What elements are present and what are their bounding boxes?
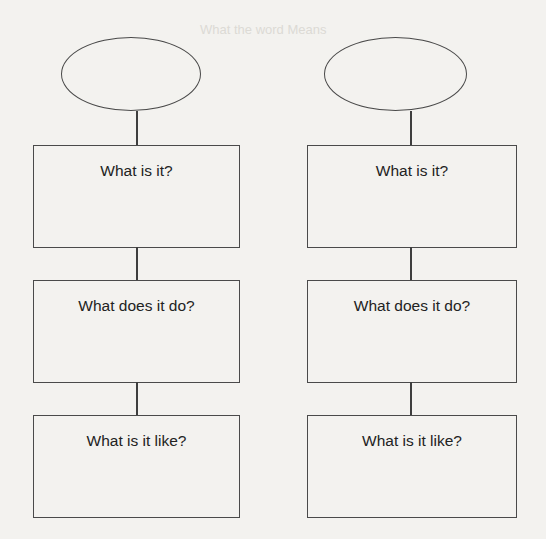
left-box-what-is-it-like: What is it like? <box>33 415 240 518</box>
right-concept-ellipse <box>324 37 467 111</box>
left-box-label: What is it? <box>34 162 239 180</box>
left-box-what-is-it: What is it? <box>33 145 240 248</box>
right-connector-3 <box>410 382 412 416</box>
right-box-label: What is it? <box>308 162 516 180</box>
right-box-what-is-it-like: What is it like? <box>307 415 517 518</box>
background-bleed-text: What the word Means <box>200 22 326 37</box>
left-box-what-does-it-do: What does it do? <box>33 280 240 383</box>
left-box-label: What does it do? <box>34 297 239 315</box>
left-concept-ellipse <box>61 37 201 111</box>
left-connector-1 <box>136 111 138 145</box>
left-box-label: What is it like? <box>34 432 239 450</box>
left-connector-3 <box>136 382 138 416</box>
right-box-what-does-it-do: What does it do? <box>307 280 517 383</box>
right-box-label: What is it like? <box>308 432 516 450</box>
right-connector-2 <box>410 247 412 281</box>
left-connector-2 <box>136 247 138 281</box>
right-box-what-is-it: What is it? <box>307 145 517 248</box>
right-box-label: What does it do? <box>308 297 516 315</box>
right-connector-1 <box>410 111 412 145</box>
